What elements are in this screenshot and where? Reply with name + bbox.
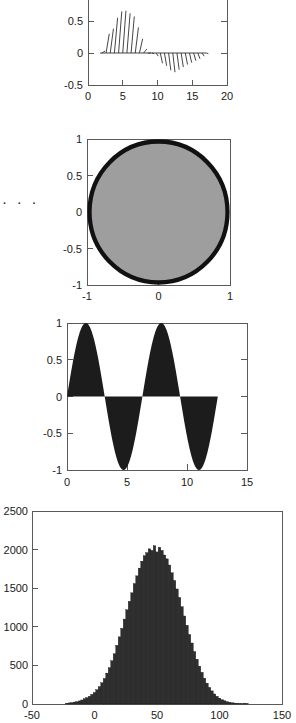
histogram-bar <box>131 593 134 704</box>
histogram-bar <box>126 610 129 704</box>
quiver-arrow <box>206 53 208 54</box>
quiver-plot-data <box>100 11 208 72</box>
histogram-bar <box>76 702 79 704</box>
histogram-bar <box>201 672 204 704</box>
histogram-bar <box>208 687 211 704</box>
histogram-bar <box>113 654 116 704</box>
y-label-1: 1 <box>76 133 82 145</box>
y-label-0p5: 0.5 <box>47 354 62 366</box>
histogram-bar <box>236 703 239 704</box>
x-label-neg50: -50 <box>24 709 40 721</box>
histogram-bar <box>196 659 199 704</box>
histogram-bar <box>233 703 236 704</box>
histogram-figure: 2500 2000 1500 1000 500 0 -50 0 50 100 1… <box>0 500 296 723</box>
histogram-bar <box>86 698 89 704</box>
histogram-bar <box>96 690 99 704</box>
histogram-bar <box>213 694 216 704</box>
sine-plot-axes: 1 0.5 0 -0.5 -1 0 5 10 15 <box>43 317 253 488</box>
histogram-bar <box>211 691 214 704</box>
x-label-neg1: -1 <box>82 290 92 302</box>
quiver-arrow <box>181 53 183 67</box>
x-label-5: 5 <box>124 476 130 488</box>
histogram-bar <box>206 683 209 704</box>
quiver-arrow <box>194 53 196 61</box>
histogram-bar <box>123 619 126 704</box>
quiver-arrow <box>177 53 179 70</box>
histogram-bar <box>151 550 154 704</box>
y-label-neg0p5: -0.5 <box>43 427 62 439</box>
quiver-arrow <box>152 53 154 54</box>
histogram-bar <box>188 635 191 704</box>
histogram-bar <box>228 702 231 704</box>
x-label-5: 5 <box>120 90 126 102</box>
histogram-bar <box>173 580 176 704</box>
histogram-bar <box>98 687 101 704</box>
quiver-arrow <box>189 53 191 63</box>
x-label-10: 10 <box>151 90 163 102</box>
circle-plot-data <box>90 142 228 283</box>
y-label-1000: 1000 <box>4 621 28 633</box>
x-label-150: 150 <box>273 709 291 721</box>
histogram-bar <box>116 645 119 704</box>
quiver-plot-axes: 0.5 0 -0.5 0 5 10 15 20 <box>64 0 233 102</box>
histogram-bar <box>148 549 151 704</box>
y-label-2000: 2000 <box>4 544 28 556</box>
y-label-neg1: -1 <box>52 464 62 476</box>
histogram-bar <box>158 547 161 704</box>
quiver-arrow <box>185 53 187 65</box>
quiver-arrow <box>106 34 109 53</box>
histogram-bar <box>111 661 114 704</box>
histogram-bar <box>218 698 221 704</box>
histogram-bar <box>171 573 174 704</box>
x-label-1: 1 <box>227 290 233 302</box>
y-label-2500: 2500 <box>4 505 28 517</box>
figure-page: · · · 0.5 0 -0.5 <box>0 0 296 723</box>
histogram-bar <box>183 616 186 704</box>
quiver-arrow <box>144 49 147 53</box>
filled-circle <box>90 142 228 283</box>
histogram-bar <box>226 702 229 704</box>
x-label-0: 0 <box>64 476 70 488</box>
histogram-bar <box>83 699 86 704</box>
histogram-bar <box>163 555 166 704</box>
histogram-bar <box>198 666 201 704</box>
histogram-bar <box>88 696 91 704</box>
quiver-arrow <box>173 53 175 72</box>
quiver-arrow <box>164 53 166 66</box>
histogram-bar <box>106 673 109 704</box>
histogram-bar <box>203 678 206 704</box>
quiver-arrow <box>110 29 113 53</box>
histogram-bar <box>178 597 181 704</box>
x-label-10: 10 <box>181 476 193 488</box>
quiver-arrow <box>131 17 134 53</box>
histogram-bar <box>216 696 219 704</box>
histogram-bars <box>66 546 249 704</box>
histogram-bar <box>176 589 179 704</box>
histogram-bar <box>143 556 146 704</box>
quiver-arrow <box>160 53 162 63</box>
histogram-bar <box>78 701 81 704</box>
y-label-500: 500 <box>10 659 28 671</box>
sine-filled-area <box>67 323 218 470</box>
histogram-bar <box>243 703 246 704</box>
x-label-0: 0 <box>91 709 97 721</box>
axis-frame <box>88 0 227 85</box>
y-label-neg1: -1 <box>72 279 82 291</box>
quiver-arrow <box>114 18 117 53</box>
y-label-neg0p5: -0.5 <box>64 79 83 91</box>
quiver-arrow <box>119 11 122 53</box>
histogram-bar <box>101 683 104 704</box>
quiver-arrow <box>202 53 204 56</box>
histogram-bar <box>93 692 96 704</box>
sine-plot-data <box>67 323 218 470</box>
x-label-15: 15 <box>241 476 253 488</box>
histogram-bar <box>193 652 196 705</box>
histogram-bar <box>121 628 124 704</box>
y-label-1: 1 <box>56 317 62 329</box>
y-label-0: 0 <box>76 206 82 218</box>
circle-plot-figure: 1 0.5 0 -0.5 -1 -1 0 1 <box>0 128 296 303</box>
histogram-bar <box>138 568 141 704</box>
quiver-plot-svg: 0.5 0 -0.5 0 5 10 15 20 <box>0 0 296 112</box>
y-label-0p5: 0.5 <box>67 170 82 182</box>
quiver-plot-figure: 0.5 0 -0.5 0 5 10 15 20 <box>0 0 296 112</box>
